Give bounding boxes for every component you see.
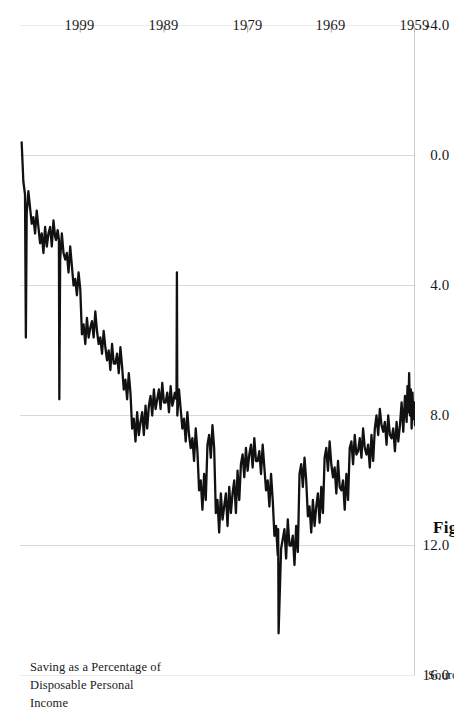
series-line-personal-savings-rate (22, 142, 415, 633)
y-tick-label-12.0: 12.0 (416, 537, 450, 554)
y-tick-label-8.0: 8.0 (416, 407, 450, 424)
source-note: Sources: BEA online (428, 667, 454, 682)
x-tick-label-1999: 1999 (57, 17, 103, 34)
y-axis-description-note: Saving as a Percentage of Disposable Per… (30, 657, 161, 711)
x-tick-label-1969: 1969 (308, 17, 354, 34)
axis-line (80, 25, 415, 675)
rotated-page-canvas: 16.012.08.04.00.0-4.0 195919691979198919… (0, 0, 454, 715)
y-tick-label-0.0: 0.0 (416, 147, 450, 164)
plot-area (20, 25, 415, 675)
line-chart-svg (20, 25, 415, 675)
figure-title: Figure 5.18 - Personal Savings Rate (U.S… (433, 517, 454, 537)
x-tick-label-1959: 1959 (392, 17, 438, 34)
x-tick-label-1979: 1979 (224, 17, 270, 34)
x-tick-label-1989: 1989 (140, 17, 186, 34)
gridlines (20, 25, 415, 675)
y-tick-label-4.0: 4.0 (416, 277, 450, 294)
data-series-personal-savings-rate (22, 142, 415, 633)
figure-container: 16.012.08.04.00.0-4.0 195919691979198919… (0, 0, 454, 715)
